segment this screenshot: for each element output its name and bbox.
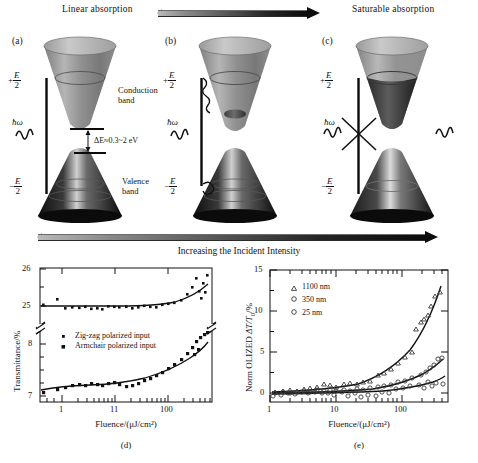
- panel-c-lower-energy: −E2: [321, 177, 334, 197]
- chart-e-xlabel-text: Fluence/(μJ/cm²): [328, 419, 390, 429]
- chart-e-caption: (e): [270, 440, 448, 450]
- chart-e-plot-area: [238, 262, 478, 462]
- panel-c-photon-label: ħω: [324, 117, 335, 127]
- figure-root: Linear absorption Saturable absorption (…: [0, 0, 478, 463]
- panel-a-conduction-label: Conduction band: [118, 86, 160, 106]
- panel-b-photon-label: ħω: [167, 117, 178, 127]
- intensity-arrow-bottom: [38, 233, 438, 242]
- panel-b-lower-energy: −E2: [164, 177, 177, 197]
- arrow-head-icon: [307, 7, 320, 19]
- chart-e-xtick-100: 100: [394, 404, 407, 414]
- chart-d-legend-armchair: Armchair polarized input: [75, 341, 156, 350]
- panel-b: (b): [163, 34, 313, 224]
- chart-e-xtick-10: 10: [330, 404, 339, 414]
- top-right-label: Saturable absorption: [352, 4, 434, 14]
- panel-a-gap-label: ΔE≈0.3~2 eV: [94, 136, 138, 145]
- panel-a: (a): [8, 34, 158, 224]
- panel-a-lower-energy: −E2: [9, 177, 22, 197]
- panel-c-band-diagram: [318, 34, 474, 224]
- chart-e: Norm OLIZED ΔT/T0/% 15 10 5 0: [238, 262, 478, 462]
- panel-a-photon-label: ħω: [12, 117, 23, 127]
- arrow-head-icon: [425, 231, 438, 243]
- panel-c: (c): [318, 34, 474, 224]
- arrow-shaft: [158, 10, 308, 17]
- chart-d-xtick-1: 1: [59, 404, 63, 414]
- chart-d-xtick-100: 100: [160, 404, 173, 414]
- panel-a-upper-energy: +E2: [8, 71, 21, 91]
- intensity-arrow-label: Increasing the Incident Intensity: [0, 246, 478, 256]
- chart-e-xlabel: Fluence/(μJ/cm²): [270, 419, 448, 429]
- chart-e-legend-1100nm: 1100 nm: [302, 282, 330, 291]
- chart-e-xtick-1: 1: [267, 404, 271, 414]
- arrow-shaft: [38, 234, 426, 241]
- panel-c-upper-energy: +E2: [320, 71, 333, 91]
- intensity-arrow-top: [158, 9, 320, 18]
- chart-d-xlabel-text: Fluence/(μJ/cm²): [95, 419, 157, 429]
- chart-e-legend-25nm: 25 nm: [302, 308, 322, 317]
- panel-b-band-diagram: [163, 34, 313, 224]
- top-left-label: Linear absorption: [62, 4, 133, 14]
- chart-e-legend-350nm: 350 nm: [302, 295, 326, 304]
- panel-b-upper-energy: +E2: [163, 71, 176, 91]
- chart-d-xlabel: Fluence/(μJ/cm²): [40, 419, 212, 429]
- panel-a-valence-label: Valence band: [122, 177, 160, 197]
- chart-d-legend-zigzag: Zig-zag polarized input: [75, 331, 150, 340]
- chart-d-xtick-11: 11: [110, 404, 118, 414]
- chart-d: Transmittance/% 26 25 8 7: [0, 262, 238, 462]
- chart-d-caption: (d): [40, 440, 212, 450]
- chart-d-plot-area: [0, 262, 238, 462]
